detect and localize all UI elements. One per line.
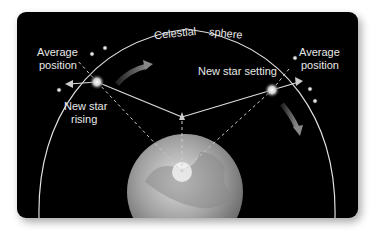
- label-new-star-rising-1: New star: [64, 100, 107, 113]
- setting-motion-arrow: [282, 104, 297, 128]
- label-average-position-left-2: position: [39, 59, 77, 72]
- new-star-setting: [264, 82, 280, 98]
- diagram-panel: Celestial sphere Average position New st…: [17, 12, 358, 218]
- new-star-rising: [89, 74, 105, 90]
- celestial-sphere-diagram: [17, 12, 358, 218]
- label-new-star-rising-2: rising: [71, 113, 97, 126]
- label-average-position-left-1: Average: [37, 46, 78, 59]
- label-new-star-setting: New star setting: [198, 65, 277, 78]
- rising-motion-arrow: [117, 66, 147, 84]
- label-average-position-right-1: Average: [299, 46, 340, 59]
- label-average-position-right-2: position: [301, 59, 339, 72]
